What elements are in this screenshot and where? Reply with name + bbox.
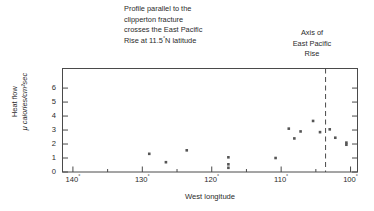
x-tick-label-4: 100°	[336, 175, 366, 184]
data-point	[319, 131, 322, 134]
ridge-axis-annotation: Axis ofEast PacificRise	[276, 28, 348, 60]
data-point	[227, 167, 230, 170]
x-tick-label-0: 140°	[58, 175, 88, 184]
y-tick-label-2: 2	[46, 139, 56, 148]
y-tick-label-0: 0	[46, 167, 56, 176]
y-axis-label: Heat flowμ calories/cm²sec	[10, 54, 29, 150]
ridge-axis-annotation-line-3: Rise	[305, 49, 320, 58]
data-point	[293, 137, 296, 140]
ridge-axis-annotation-line-2: East Pacific	[293, 39, 332, 48]
data-point	[185, 149, 188, 152]
data-point	[227, 163, 230, 166]
axis-ticks	[63, 88, 358, 172]
y-tick-label-4: 4	[46, 111, 56, 120]
x-tick-label-3: 110°	[266, 175, 296, 184]
ridge-axis-annotation-line-1: Axis of	[301, 28, 323, 37]
x-tick-label-2: 120°	[197, 175, 227, 184]
y-axis-label-line-2: μ calories/cm²sec	[20, 73, 29, 130]
data-point	[345, 143, 348, 146]
data-point	[274, 157, 277, 160]
profile-annotation: Profile parallel to theclipperton fractu…	[124, 4, 202, 46]
data-point	[227, 156, 230, 159]
y-axis-label-line-1: Heat flow	[10, 86, 19, 117]
y-tick-label-1: 1	[46, 153, 56, 162]
data-points	[148, 120, 348, 169]
y-tick-label-6: 6	[46, 83, 56, 92]
data-point	[148, 153, 151, 156]
profile-annotation-line-3: crosses the East Pacific	[124, 25, 202, 34]
data-point	[328, 128, 331, 131]
heat-flow-scatter-figure: Profile parallel to theclipperton fractu…	[0, 0, 374, 211]
profile-annotation-line-4: Rise at 11.5°N latitude	[124, 36, 196, 45]
data-point	[299, 130, 302, 133]
data-point	[287, 127, 290, 130]
profile-annotation-line-1: Profile parallel to the	[124, 4, 191, 13]
x-tick-label-1: 130°	[127, 175, 157, 184]
y-tick-label-5: 5	[46, 97, 56, 106]
y-tick-label-3: 3	[46, 125, 56, 134]
profile-annotation-line-2: clipperton fracture	[124, 15, 183, 24]
data-point	[312, 120, 315, 123]
x-axis-label: West longitude	[62, 192, 358, 201]
data-point	[165, 161, 168, 164]
data-point	[334, 136, 337, 139]
